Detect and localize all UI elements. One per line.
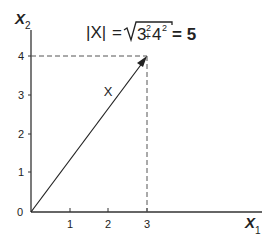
vector-x: [31, 62, 143, 212]
formula-plus: +: [145, 31, 151, 42]
magnitude-formula: |X| = 3 2 + 4 2 = 5: [86, 22, 196, 44]
y-tick-label-1: 1: [18, 166, 24, 178]
y-tick-label-2: 2: [18, 128, 24, 140]
y-tick-label-4: 4: [18, 50, 24, 62]
y-tick-label-3: 3: [18, 89, 24, 101]
formula-exp-2: 2: [162, 23, 167, 33]
vector-label: X: [104, 84, 113, 99]
y-axis-label: X2: [14, 10, 31, 31]
arrowhead-icon: [137, 56, 147, 67]
origin-label: 0: [17, 206, 23, 218]
formula-rhs: = 5: [172, 25, 196, 44]
x-tick-label-3: 3: [144, 218, 150, 230]
formula-base-2: 4: [152, 25, 161, 44]
x-tick-label-1: 1: [67, 218, 73, 230]
formula-equals: =: [112, 23, 122, 42]
x-axis-label: X1: [244, 214, 261, 236]
x-tick-label-2: 2: [105, 218, 111, 230]
formula-lhs: |X|: [86, 23, 106, 42]
vector-diagram: 1 2 3 1 2 3 4 0 X1 X2 X |X| = 3 2 + 4 2 …: [0, 0, 277, 243]
